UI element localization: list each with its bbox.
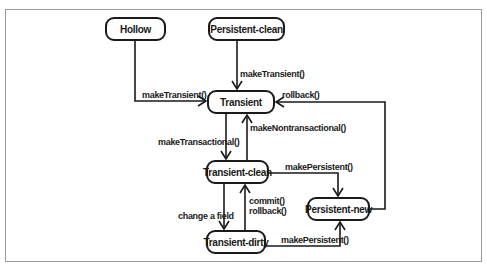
state-label: Transient-clean (203, 167, 272, 178)
state-transient-dirty: Transient-dirty (206, 230, 266, 254)
label-change-a-field: change a field (178, 211, 234, 221)
state-label: Hollow (120, 24, 151, 35)
label-clean-make-persistent: makePersistent() (285, 162, 353, 172)
label-make-transactional: makeTransactional() (158, 137, 239, 147)
state-transient: Transient (207, 90, 275, 114)
state-label: Persistent-new (305, 204, 372, 215)
state-hollow: Hollow (105, 17, 166, 41)
state-label: Transient (220, 97, 262, 108)
state-persistent-clean: Persistent-clean (208, 17, 285, 41)
state-label: Transient-dirty (204, 237, 269, 248)
state-label: Persistent-clean (210, 24, 282, 35)
label-persistent-clean-make-transient: makeTransient() (240, 69, 305, 79)
label-hollow-make-transient: makeTransient() (142, 90, 207, 100)
label-make-nontransactional: makeNontransactional() (250, 123, 346, 133)
label-rollback: rollback() (282, 90, 320, 100)
label-commit: commit() (249, 196, 285, 206)
label-rollback-dirty: rollback() (249, 206, 287, 216)
label-dirty-make-persistent: makePersistent() (281, 235, 349, 245)
state-transient-clean: Transient-clean (206, 160, 269, 184)
state-persistent-new: Persistent-new (307, 197, 370, 221)
